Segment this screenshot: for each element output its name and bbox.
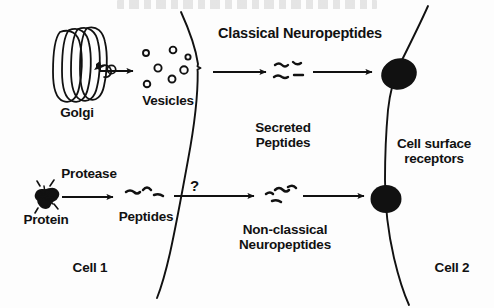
vesicle-cluster bbox=[143, 47, 191, 88]
peptide-squiggle bbox=[275, 188, 289, 192]
peptide-squiggle bbox=[272, 200, 281, 202]
vesicle bbox=[154, 64, 161, 71]
neuropeptide-secretion-diagram: Golgi Vesicles Classical Neuropeptides S… bbox=[0, 0, 494, 308]
peptide-squiggle bbox=[293, 62, 301, 64]
peptide-squiggle bbox=[154, 194, 163, 196]
heading-nonclassical-neuropeptides: Non-classical Neuropeptides bbox=[239, 222, 331, 252]
heading-nonclassical-line2: Neuropeptides bbox=[239, 237, 331, 252]
vesicle bbox=[170, 47, 177, 54]
peptide-squiggle bbox=[266, 193, 273, 195]
label-cell-2: Cell 2 bbox=[435, 260, 470, 275]
label-receptors-line2: receptors bbox=[397, 151, 471, 166]
label-protease: Protease bbox=[61, 166, 116, 181]
heading-nonclassical-line1: Non-classical bbox=[239, 222, 331, 237]
label-receptors-line1: Cell surface bbox=[397, 136, 471, 151]
label-secreted-peptides-line2: Peptides bbox=[255, 135, 310, 150]
vesicle bbox=[169, 76, 176, 83]
peptide-squiggle bbox=[126, 191, 140, 194]
label-transport-question: ? bbox=[190, 178, 199, 195]
secreted-peptide-squiggles-classical bbox=[274, 62, 303, 78]
label-secreted-peptides-line1: Secreted bbox=[255, 120, 310, 135]
intracellular-peptide-squiggles bbox=[126, 188, 163, 197]
heading-classical-neuropeptides: Classical Neuropeptides bbox=[218, 25, 382, 41]
label-golgi: Golgi bbox=[60, 105, 94, 120]
peptide-squiggle bbox=[274, 76, 288, 79]
cell1-membrane bbox=[157, 12, 201, 298]
cell-surface-receptor-lower bbox=[371, 185, 402, 213]
vesicle bbox=[143, 50, 149, 56]
protein-icon bbox=[35, 180, 58, 213]
label-cell-1: Cell 1 bbox=[73, 260, 108, 275]
label-protein: Protein bbox=[23, 212, 68, 227]
cell-surface-receptor-upper bbox=[377, 54, 420, 94]
golgi-apparatus-icon bbox=[53, 27, 116, 101]
vesicle bbox=[180, 66, 188, 74]
label-peptides: Peptides bbox=[119, 209, 174, 224]
peptide-squiggle bbox=[275, 64, 288, 67]
label-secreted-peptides: Secreted Peptides bbox=[255, 120, 310, 150]
secreted-peptide-squiggles-nonclassical bbox=[266, 186, 296, 202]
vesicle bbox=[144, 81, 151, 88]
peptide-squiggle bbox=[288, 186, 296, 188]
vesicle bbox=[185, 54, 190, 59]
label-cell-surface-receptors: Cell surface receptors bbox=[397, 136, 471, 166]
peptide-squiggle bbox=[143, 188, 151, 191]
label-vesicles: Vesicles bbox=[142, 93, 194, 108]
